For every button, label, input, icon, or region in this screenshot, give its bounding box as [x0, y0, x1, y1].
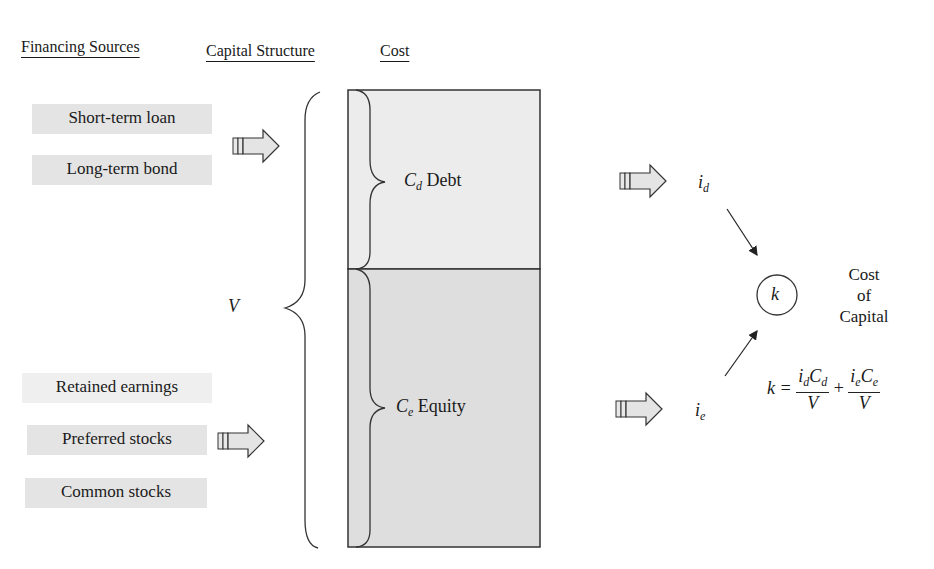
heading-capital-structure: Capital Structure	[206, 42, 315, 60]
source-long-term-bond: Long-term bond	[32, 155, 212, 185]
formula-term-debt: idCd V	[796, 366, 829, 413]
caption-line-2: of	[826, 285, 902, 306]
caption-line-1: Cost	[826, 264, 902, 285]
debt-to-k-arrow-icon	[727, 209, 757, 255]
total-value-label: V	[228, 296, 239, 317]
equity-rate-label: ie	[695, 400, 705, 424]
heading-cost: Cost	[380, 42, 409, 60]
equity-subscript: e	[408, 405, 413, 419]
k-node-label: k	[771, 284, 779, 305]
debt-symbol: C	[404, 170, 416, 190]
t2-den: V	[848, 393, 880, 413]
formula-lhs: k =	[767, 378, 792, 398]
debt-label: Cd Debt	[404, 170, 462, 194]
t1-c-sub: d	[821, 375, 827, 389]
source-preferred-stocks: Preferred stocks	[27, 425, 207, 455]
equity-sources-arrow-icon	[218, 425, 264, 457]
total-value-brace	[285, 92, 320, 548]
formula-term-equity: ieCe V	[848, 366, 880, 413]
equity-label: Ce Equity	[396, 396, 466, 420]
t1-c: C	[809, 366, 821, 386]
t2-c-sub: e	[873, 375, 878, 389]
debt-rate-label: id	[698, 172, 709, 196]
equity-symbol: C	[396, 396, 408, 416]
debt-sources-arrow-icon	[233, 130, 279, 162]
t1-den: V	[796, 393, 829, 413]
debt-text: Debt	[427, 170, 462, 190]
source-retained-earnings: Retained earnings	[22, 373, 212, 403]
t2-c: C	[861, 366, 873, 386]
heading-financing-sources: Financing Sources	[21, 38, 140, 56]
equity-cost-arrow-icon	[616, 393, 662, 425]
equity-text: Equity	[418, 396, 466, 416]
debt-rate-subscript: d	[703, 181, 709, 195]
caption-line-3: Capital	[826, 306, 902, 327]
equity-rate-subscript: e	[700, 409, 705, 423]
debt-cost-arrow-icon	[620, 165, 666, 197]
wacc-formula: k = idCd V + ieCe V	[767, 366, 880, 413]
equity-to-k-arrow-icon	[725, 331, 757, 376]
debt-subscript: d	[416, 179, 422, 193]
source-short-term-loan: Short-term loan	[32, 104, 212, 134]
formula-plus: +	[834, 378, 844, 398]
source-common-stocks: Common stocks	[25, 478, 207, 508]
cost-of-capital-caption: Cost of Capital	[826, 264, 902, 327]
